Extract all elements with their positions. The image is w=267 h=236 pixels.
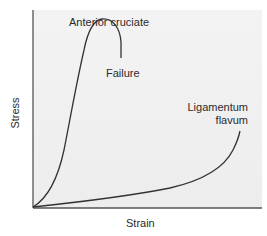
y-axis-label: Stress — [9, 97, 21, 128]
ligamentum-flavum-label-line2: flavum — [216, 114, 248, 126]
ligamentum-flavum-label-line1: Ligamentum — [187, 101, 248, 113]
ligamentum-flavum-curve — [33, 131, 240, 207]
failure-label: Failure — [106, 67, 140, 79]
anterior-cruciate-curve — [33, 19, 121, 207]
anterior-cruciate-label: Anterior cruciate — [69, 16, 149, 28]
x-axis-label: Strain — [126, 217, 155, 229]
